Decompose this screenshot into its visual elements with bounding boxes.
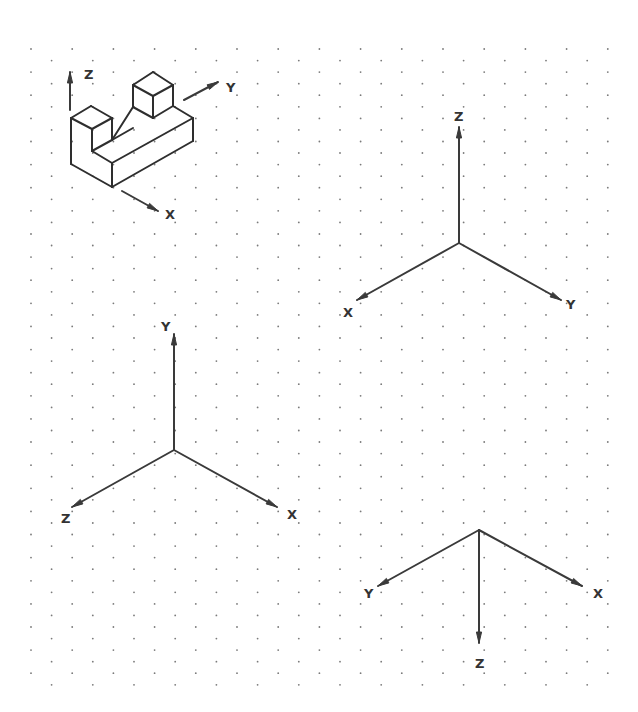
- grid-dot: [442, 302, 444, 304]
- grid-dot: [483, 580, 485, 582]
- grid-dot: [401, 557, 403, 559]
- grid-dot: [607, 94, 609, 96]
- grid-dot: [401, 511, 403, 513]
- grid-dot: [92, 522, 94, 524]
- grid-dot: [422, 360, 424, 362]
- grid-dot: [71, 557, 73, 559]
- grid-dot: [30, 233, 32, 235]
- grid-dot: [71, 210, 73, 212]
- grid-dot: [422, 684, 424, 686]
- grid-dot: [236, 603, 238, 605]
- grid-dot: [51, 661, 53, 663]
- grid-dot: [545, 175, 547, 177]
- grid-dot: [545, 430, 547, 432]
- grid-dot: [92, 245, 94, 247]
- grid-dot: [236, 395, 238, 397]
- grid-dot: [174, 291, 176, 293]
- grid-dot: [360, 626, 362, 628]
- grid-dot: [71, 441, 73, 443]
- grid-dot: [154, 603, 156, 605]
- grid-dot: [30, 48, 32, 50]
- grid-dot: [257, 383, 259, 385]
- grid-dot: [401, 372, 403, 374]
- grid-dot: [463, 222, 465, 224]
- grid-dot: [319, 233, 321, 235]
- grid-dot: [298, 545, 300, 547]
- grid-dot: [216, 453, 218, 455]
- block-edge: [153, 106, 173, 118]
- grid-dot: [51, 360, 53, 362]
- grid-dot: [319, 187, 321, 189]
- grid-dot: [257, 175, 259, 177]
- grid-dot: [525, 626, 527, 628]
- grid-dot: [71, 233, 73, 235]
- grid-dot: [174, 314, 176, 316]
- grid-dot: [298, 476, 300, 478]
- grid-dot: [92, 198, 94, 200]
- grid-dot: [360, 349, 362, 351]
- grid-dot: [71, 94, 73, 96]
- grid-dot: [463, 453, 465, 455]
- grid-dot: [71, 279, 73, 281]
- grid-dot: [30, 164, 32, 166]
- grid-dot: [174, 453, 176, 455]
- grid-dot: [504, 453, 506, 455]
- arrowhead-icon: [550, 292, 561, 300]
- grid-dot: [401, 487, 403, 489]
- grid-dot: [339, 198, 341, 200]
- grid-dot: [607, 233, 609, 235]
- grid-dot: [566, 164, 568, 166]
- axis-label-y: Y: [363, 586, 374, 601]
- grid-dot: [133, 568, 135, 570]
- grid-dot: [277, 187, 279, 189]
- grid-dot: [236, 672, 238, 674]
- block-axis-y: Y: [184, 80, 236, 100]
- grid-dot: [133, 129, 135, 131]
- grid-dot: [360, 649, 362, 651]
- grid-dot: [113, 603, 115, 605]
- grid-dot: [401, 603, 403, 605]
- grid-dot: [216, 245, 218, 247]
- grid-dot: [525, 511, 527, 513]
- grid-dot: [483, 649, 485, 651]
- grid-dot: [277, 603, 279, 605]
- grid-dot: [422, 60, 424, 62]
- grid-dot: [133, 661, 135, 663]
- block-edge: [112, 141, 193, 187]
- grid-dot: [566, 141, 568, 143]
- grid-dot: [566, 464, 568, 466]
- grid-dot: [545, 60, 547, 62]
- grid-dot: [174, 684, 176, 686]
- grid-dot: [133, 383, 135, 385]
- grid-dot: [174, 476, 176, 478]
- grid-dot: [566, 557, 568, 559]
- grid-dot: [442, 349, 444, 351]
- grid-dot: [216, 638, 218, 640]
- grid-dot: [339, 83, 341, 85]
- grid-dot: [133, 638, 135, 640]
- grid-dot: [360, 534, 362, 536]
- grid-dot: [92, 60, 94, 62]
- grid-dot: [483, 48, 485, 50]
- grid-dot: [566, 534, 568, 536]
- grid-dot: [463, 522, 465, 524]
- grid-dot: [360, 418, 362, 420]
- grid-dot: [277, 233, 279, 235]
- grid-dot: [607, 418, 609, 420]
- grid-dot: [51, 591, 53, 593]
- grid-dot: [504, 661, 506, 663]
- grid-dot: [380, 291, 382, 293]
- grid-dot: [566, 395, 568, 397]
- grid-dot: [195, 279, 197, 281]
- grid-dot: [195, 418, 197, 420]
- block-axis-z: Z: [67, 67, 93, 110]
- grid-dot: [195, 187, 197, 189]
- grid-dot: [195, 534, 197, 536]
- grid-dot: [401, 48, 403, 50]
- grid-dot: [174, 83, 176, 85]
- grid-dot: [463, 591, 465, 593]
- grid-dot: [463, 360, 465, 362]
- grid-dot: [113, 557, 115, 559]
- grid-dot: [195, 302, 197, 304]
- grid-dot: [586, 661, 588, 663]
